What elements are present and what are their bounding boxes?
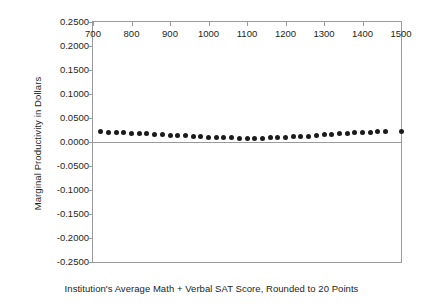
- y-axis-title: Marginal Productivity in Dollars: [32, 39, 43, 249]
- data-point: [175, 133, 180, 138]
- data-point: [152, 132, 157, 137]
- y-tick-mark: [89, 142, 93, 143]
- y-tick-mark: [89, 46, 93, 47]
- y-tick-label: 0.0000: [60, 136, 89, 147]
- data-point: [275, 135, 280, 140]
- y-tick-mark: [89, 214, 93, 215]
- y-tick-mark: [89, 166, 93, 167]
- data-point: [298, 134, 303, 139]
- data-point: [283, 135, 288, 140]
- x-tick-label: 1500: [381, 28, 421, 39]
- data-point: [160, 132, 165, 137]
- y-tick-mark: [89, 190, 93, 191]
- y-tick-label: -0.2500: [57, 256, 89, 267]
- data-point: [114, 130, 119, 135]
- y-tick-label: 0.1000: [60, 88, 89, 99]
- data-point: [221, 135, 226, 140]
- y-tick-mark: [89, 94, 93, 95]
- y-tick-mark: [89, 262, 93, 263]
- data-point: [368, 130, 373, 135]
- x-tick-mark: [93, 22, 94, 26]
- data-point: [329, 132, 334, 137]
- data-point: [291, 134, 296, 139]
- data-point: [168, 133, 173, 138]
- data-point: [375, 129, 380, 134]
- data-point: [314, 133, 319, 138]
- x-tick-mark: [209, 22, 210, 26]
- x-tick-mark: [132, 22, 133, 26]
- data-point: [137, 131, 142, 136]
- y-tick-label: 0.0500: [60, 112, 89, 123]
- data-point: [360, 130, 365, 135]
- data-point: [121, 130, 126, 135]
- data-point: [198, 134, 203, 139]
- y-tick-mark: [89, 118, 93, 119]
- zero-reference-line: [93, 142, 401, 143]
- data-point: [252, 136, 257, 141]
- data-point: [144, 131, 149, 136]
- x-tick-mark: [247, 22, 248, 26]
- data-point: [106, 130, 111, 135]
- data-point: [322, 132, 327, 137]
- x-tick-label: 1100: [227, 28, 267, 39]
- data-point: [352, 130, 357, 135]
- data-point: [129, 131, 134, 136]
- data-point: [206, 135, 211, 140]
- data-point: [383, 129, 388, 134]
- data-point: [245, 136, 250, 141]
- x-tick-mark: [363, 22, 364, 26]
- x-tick-mark: [286, 22, 287, 26]
- data-point: [237, 136, 242, 141]
- data-point: [337, 131, 342, 136]
- data-point: [229, 135, 234, 140]
- x-tick-mark: [324, 22, 325, 26]
- data-point: [306, 134, 311, 139]
- x-tick-label: 1000: [189, 28, 229, 39]
- y-tick-label: 0.2000: [60, 40, 89, 51]
- y-tick-label: -0.0500: [57, 160, 89, 171]
- chart-figure: Marginal Productivity in Dollars 0.25000…: [0, 0, 423, 308]
- y-tick-mark: [89, 70, 93, 71]
- y-tick-label: -0.2000: [57, 232, 89, 243]
- y-tick-mark: [89, 238, 93, 239]
- data-point: [268, 135, 273, 140]
- y-tick-label: -0.1500: [57, 208, 89, 219]
- data-point: [191, 134, 196, 139]
- x-tick-label: 900: [150, 28, 190, 39]
- y-tick-label: 0.2500: [60, 16, 89, 27]
- x-tick-label: 1400: [343, 28, 383, 39]
- data-point: [260, 136, 265, 141]
- y-tick-label: 0.1500: [60, 64, 89, 75]
- y-tick-label: -0.1000: [57, 184, 89, 195]
- x-tick-label: 800: [112, 28, 152, 39]
- x-tick-label: 700: [73, 28, 113, 39]
- x-tick-mark: [170, 22, 171, 26]
- plot-area: 0.25000.20000.15000.10000.05000.0000-0.0…: [92, 21, 402, 263]
- data-point: [345, 131, 350, 136]
- data-point: [214, 135, 219, 140]
- x-axis-title: Institution's Average Math + Verbal SAT …: [0, 283, 423, 294]
- x-tick-mark: [401, 22, 402, 26]
- x-tick-label: 1300: [304, 28, 344, 39]
- x-tick-label: 1200: [266, 28, 306, 39]
- data-point: [98, 129, 103, 134]
- data-point: [399, 129, 404, 134]
- data-point: [183, 133, 188, 138]
